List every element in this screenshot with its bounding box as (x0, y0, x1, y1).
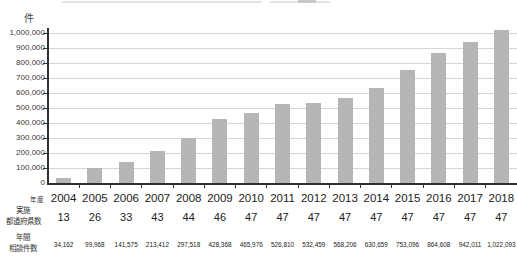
annual-consultation-value: 34,162 (48, 241, 80, 248)
annual-consultation-value: 428,368 (204, 241, 236, 248)
x-tick (423, 185, 424, 188)
x-tick (454, 185, 455, 188)
x-axis-line (47, 183, 517, 185)
x-tick (391, 185, 392, 188)
x-axis-year-label: 2015 (392, 192, 424, 204)
x-tick (360, 185, 361, 188)
table-row-label-prefectures-line2: 都道府県数 (0, 217, 46, 228)
bar-2011 (275, 104, 290, 183)
gridline-600000 (49, 93, 517, 94)
y-axis-line (47, 28, 49, 185)
prefecture-count-value: 13 (48, 211, 80, 223)
y-axis-tick-label: 400,000 (0, 119, 45, 127)
annual-consultation-value: 141,575 (110, 241, 142, 248)
x-tick (266, 185, 267, 188)
y-axis-unit-label: 件 (24, 10, 34, 25)
prefecture-count-value: 46 (204, 211, 236, 223)
bar-2016 (431, 53, 446, 183)
table-row-label-consultations-line2: 相談件数 (0, 244, 46, 255)
bar-2006 (119, 162, 134, 183)
bar-2014 (369, 88, 384, 183)
gridline-700000 (49, 78, 517, 79)
bar-2012 (306, 103, 321, 183)
y-axis-tick-label: 500,000 (0, 104, 45, 112)
prefecture-count-value: 47 (267, 211, 299, 223)
x-tick (110, 185, 111, 188)
x-axis-year-label: 2011 (267, 192, 299, 204)
y-axis-tick-label: 800,000 (0, 59, 45, 67)
cropped-text-remnant (62, 1, 262, 3)
x-axis-year-label: 2017 (454, 192, 486, 204)
y-axis-tick-label: 0 (0, 179, 45, 187)
prefecture-count-value: 47 (329, 211, 361, 223)
annual-consultation-value: 864,608 (423, 241, 455, 248)
prefecture-count-value: 47 (454, 211, 486, 223)
y-axis-tick-label: 100,000 (0, 164, 45, 172)
y-axis-tick-label: 200,000 (0, 149, 45, 157)
x-axis-year-label: 2007 (141, 192, 173, 204)
prefecture-count-value: 43 (141, 211, 173, 223)
annual-consultation-value: 526,810 (267, 241, 299, 248)
bar-chart-with-table: 件 0100,000200,000300,000400,000500,00060… (0, 0, 517, 263)
prefecture-count-value: 47 (360, 211, 392, 223)
x-axis-year-label: 2005 (79, 192, 111, 204)
cropped-text-remnant (298, 0, 316, 3)
bar-2004 (56, 178, 71, 183)
x-tick (298, 185, 299, 188)
annual-consultation-value: 465,976 (235, 241, 267, 248)
x-axis-year-label: 2018 (485, 192, 517, 204)
x-axis-year-label: 2010 (235, 192, 267, 204)
prefecture-count-value: 47 (392, 211, 424, 223)
bar-2018 (494, 30, 509, 183)
y-axis-tick-label: 600,000 (0, 89, 45, 97)
x-tick (173, 185, 174, 188)
x-tick (79, 185, 80, 188)
x-axis-year-label: 2013 (329, 192, 361, 204)
bar-2008 (181, 138, 196, 183)
x-axis-year-label: 2004 (48, 192, 80, 204)
x-axis-year-label: 2012 (298, 192, 330, 204)
x-axis-year-label: 2016 (423, 192, 455, 204)
table-row-label-prefectures-line1: 実施 (0, 206, 46, 217)
annual-consultation-value: 1,022,093 (485, 241, 517, 248)
table-row-label-year: 年度 (4, 194, 44, 204)
prefecture-count-value: 47 (235, 211, 267, 223)
prefecture-count-value: 33 (110, 211, 142, 223)
bar-2009 (212, 119, 227, 183)
x-axis-year-label: 2009 (204, 192, 236, 204)
x-axis-year-label: 2014 (360, 192, 392, 204)
prefecture-count-value: 44 (173, 211, 205, 223)
gridline-800000 (49, 63, 517, 64)
bar-2007 (150, 151, 165, 183)
table-row-label-consultations: 年間 相談件数 (0, 233, 46, 254)
bar-2015 (400, 70, 415, 183)
y-axis-tick-label: 900,000 (0, 44, 45, 52)
annual-consultation-value: 630,659 (360, 241, 392, 248)
annual-consultation-value: 213,412 (141, 241, 173, 248)
bar-2013 (338, 98, 353, 183)
annual-consultation-value: 297,518 (173, 241, 205, 248)
x-axis-year-label: 2006 (110, 192, 142, 204)
annual-consultation-value: 99,968 (79, 241, 111, 248)
table-row-label-consultations-line1: 年間 (0, 233, 46, 244)
y-axis-tick-label: 300,000 (0, 134, 45, 142)
x-tick (141, 185, 142, 188)
x-tick (235, 185, 236, 188)
annual-consultation-value: 532,459 (298, 241, 330, 248)
x-tick (329, 185, 330, 188)
annual-consultation-value: 568,206 (329, 241, 361, 248)
bar-2017 (463, 42, 478, 183)
annual-consultation-value: 942,011 (454, 241, 486, 248)
gridline-1000000 (49, 33, 517, 34)
gridline-900000 (49, 48, 517, 49)
y-axis-tick-label: 700,000 (0, 74, 45, 82)
prefecture-count-value: 47 (298, 211, 330, 223)
x-tick (485, 185, 486, 188)
prefecture-count-value: 47 (423, 211, 455, 223)
table-row-label-prefectures: 実施 都道府県数 (0, 206, 46, 227)
bar-2005 (87, 168, 102, 183)
x-axis-year-label: 2008 (173, 192, 205, 204)
prefecture-count-value: 26 (79, 211, 111, 223)
prefecture-count-value: 47 (485, 211, 517, 223)
bar-2010 (244, 113, 259, 183)
